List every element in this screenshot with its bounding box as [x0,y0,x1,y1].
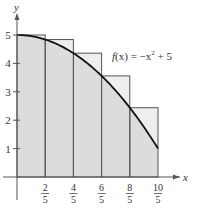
y-axis-label: y [13,1,19,13]
x-tick-denominator: 5 [99,194,104,205]
y-axis-arrow-icon [15,13,20,20]
riemann-sum-chart: 12345 25456585105 x y f(x) = −x2 + 5 [0,0,197,209]
function-constant: + 5 [155,50,173,62]
x-tick-numerator: 6 [99,182,104,193]
function-label: f(x) = −x2 + 5 [112,49,173,63]
function-expr: (x) = −x [115,50,152,63]
x-tick-numerator: 2 [43,182,48,193]
y-tick-label: 1 [5,143,11,155]
y-tick-label: 4 [5,57,11,69]
x-tick-numerator: 10 [153,182,163,193]
x-tick-denominator: 5 [71,194,76,205]
x-tick-numerator: 8 [127,182,132,193]
x-tick-numerator: 4 [71,182,76,193]
x-tick-denominator: 5 [156,194,161,205]
y-tick-label: 2 [5,114,11,126]
y-tick-label: 5 [5,29,11,41]
x-tick-denominator: 5 [43,194,48,205]
x-axis-label: x [182,171,188,183]
y-tick-label: 3 [5,86,11,98]
x-ticks: 25456585105 [41,182,163,205]
x-axis-arrow-icon [173,175,180,180]
x-tick-denominator: 5 [127,194,132,205]
